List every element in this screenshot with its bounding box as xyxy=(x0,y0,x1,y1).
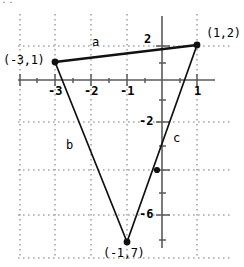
x-axis-tick-label-neg2: -2 xyxy=(84,85,98,97)
vertex-dot-c xyxy=(124,239,131,246)
grid-horizontal-lines xyxy=(18,46,232,258)
triangle-side-a xyxy=(55,45,197,62)
grid-vertical-lines xyxy=(20,14,197,258)
vertex-a-coordinate-label: (-3,1) xyxy=(3,54,45,66)
x-axis-tick-label-neg1: -1 xyxy=(120,85,134,97)
vertex-b-coordinate-label: (1,2) xyxy=(206,27,241,39)
axes xyxy=(18,16,215,248)
y-axis-tick-label-neg6: -6 xyxy=(139,208,153,220)
side-c-midpoint-dot xyxy=(154,167,160,173)
y-axis-tick-label-neg2: -2 xyxy=(139,115,153,127)
side-b-label: b xyxy=(66,139,73,151)
x-axis-tick-label-pos1: 1 xyxy=(194,85,201,97)
side-a-label: a xyxy=(92,36,99,48)
plot-canvas xyxy=(0,0,244,267)
coordinate-plane-figure: ⠁⠁ xyxy=(0,0,244,267)
vertex-dot-a xyxy=(52,59,59,66)
x-axis-tick-label-neg3: -3 xyxy=(48,85,62,97)
side-c-label: c xyxy=(173,132,180,144)
vertex-dot-b xyxy=(194,42,201,49)
vertex-c-coordinate-label: (-1,7) xyxy=(103,247,145,259)
y-axis-tick-label-pos2: 2 xyxy=(144,33,151,45)
